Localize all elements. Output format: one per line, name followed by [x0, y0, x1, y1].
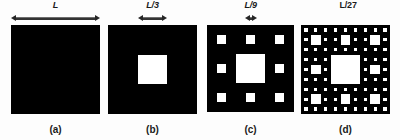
fractal-hole [364, 48, 367, 51]
fractal-square-d [301, 25, 390, 114]
double-arrow-icon-c [245, 15, 257, 22]
fractal-hole [314, 28, 317, 31]
fractal-hole [354, 98, 357, 101]
fractal-hole [304, 88, 307, 91]
fractal-hole [370, 35, 380, 45]
fractal-hole [374, 107, 377, 110]
arrow-head-right-icon [162, 15, 167, 21]
fractal-hole [364, 28, 367, 31]
dimension-label-d: L/27 [340, 0, 352, 11]
fractal-hole [314, 107, 317, 110]
fractal-hole [374, 58, 377, 61]
fractal-hole [344, 28, 347, 31]
fractal-hole [275, 64, 285, 74]
fractal-hole [364, 98, 367, 101]
fractal-hole [383, 68, 386, 71]
fractal-hole [334, 107, 337, 110]
fractal-hole [138, 55, 168, 85]
fractal-hole [364, 68, 367, 71]
panel-a: L(a) [11, 0, 100, 140]
panel-d: L/27(d) [301, 0, 390, 140]
fractal-hole [314, 88, 317, 91]
fractal-hole [314, 48, 317, 51]
fractal-hole [304, 28, 307, 31]
fractal-hole [383, 98, 386, 101]
sierpinski-carpet-figure: L(a)L/3(b)L/9(c)L/27(d) [0, 0, 400, 140]
fractal-hole [344, 48, 347, 51]
fractal-hole [364, 78, 367, 81]
fractal-hole [354, 107, 357, 110]
fractal-hole [364, 58, 367, 61]
arrow-head-right-icon [95, 15, 100, 21]
fractal-hole [311, 94, 321, 104]
dimension-annotation-d: L/27 [340, 0, 352, 25]
fractal-hole [341, 94, 351, 104]
panel-caption-a: (a) [11, 124, 100, 136]
panel-caption-b: (b) [108, 124, 197, 136]
fractal-hole [246, 35, 256, 45]
fractal-hole [246, 93, 256, 103]
fractal-hole [324, 98, 327, 101]
fractal-hole [344, 88, 347, 91]
fractal-hole [341, 35, 351, 45]
fractal-hole [383, 107, 386, 110]
fractal-hole [354, 38, 357, 41]
fractal-hole [275, 35, 285, 45]
fractal-hole [354, 48, 357, 51]
arrow-head-right-icon [252, 15, 257, 21]
fractal-hole [354, 28, 357, 31]
double-arrow-icon-b [138, 15, 168, 22]
fractal-hole [334, 98, 337, 101]
fractal-hole [334, 48, 337, 51]
fractal-hole [217, 93, 227, 103]
fractal-hole [236, 54, 265, 83]
dimension-label-b: L/3 [138, 0, 168, 11]
fractal-hole [374, 28, 377, 31]
arrow-head-left-icon [245, 15, 250, 21]
fractal-hole [324, 48, 327, 51]
fractal-hole [324, 38, 327, 41]
panel-caption-c: (c) [207, 124, 294, 136]
panel-c: L/9(c) [207, 0, 294, 140]
fractal-hole [304, 38, 307, 41]
dimension-annotation-c: L/9 [245, 0, 257, 25]
fractal-hole [374, 78, 377, 81]
fractal-hole [383, 88, 386, 91]
fractal-hole [383, 38, 386, 41]
fractal-hole [324, 78, 327, 81]
fractal-hole [324, 107, 327, 110]
fractal-hole [324, 58, 327, 61]
dimension-annotation-b: L/3 [138, 0, 168, 25]
fractal-square-b [108, 25, 197, 114]
fractal-hole [383, 48, 386, 51]
fractal-hole [331, 55, 361, 85]
fractal-hole [275, 93, 285, 103]
fractal-hole [217, 35, 227, 45]
fractal-hole [304, 107, 307, 110]
arrow-head-left-icon [138, 15, 143, 21]
fractal-hole [370, 65, 380, 75]
fractal-hole [383, 78, 386, 81]
fractal-hole [334, 38, 337, 41]
double-arrow-icon-a [11, 15, 100, 22]
fractal-hole [314, 58, 317, 61]
fractal-hole [324, 68, 327, 71]
fractal-hole [374, 48, 377, 51]
fractal-hole [383, 28, 386, 31]
fractal-hole [217, 64, 227, 74]
arrow-shaft [15, 17, 96, 20]
fractal-hole [304, 68, 307, 71]
fractal-hole [304, 78, 307, 81]
arrow-head-left-icon [11, 15, 16, 21]
fractal-square-c [207, 25, 294, 112]
fractal-hole [311, 35, 321, 45]
fractal-square-a [11, 25, 100, 114]
fractal-hole [314, 78, 317, 81]
fractal-hole [304, 58, 307, 61]
fractal-hole [364, 38, 367, 41]
panel-caption-d: (d) [301, 124, 390, 136]
fractal-hole [311, 65, 321, 75]
fractal-hole [364, 107, 367, 110]
fractal-hole [304, 48, 307, 51]
fractal-hole [354, 88, 357, 91]
